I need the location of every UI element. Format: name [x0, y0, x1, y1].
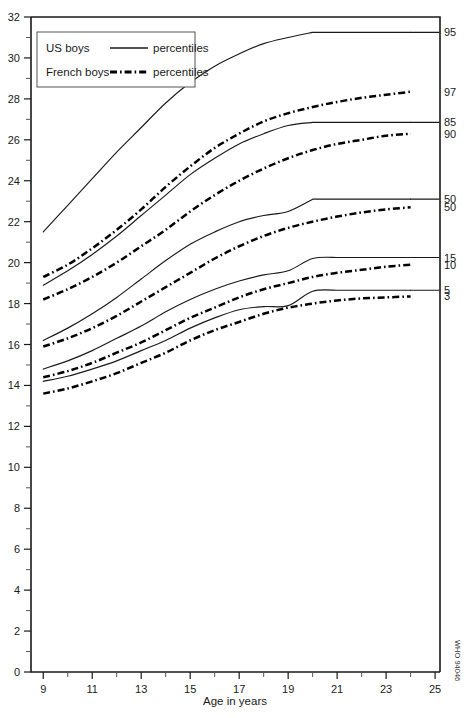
credit-note: WHO 94046	[453, 640, 462, 681]
y-tick-label: 12	[8, 420, 20, 432]
y-tick-label: 14	[8, 379, 20, 391]
curve-end-label-50: 50	[444, 201, 456, 213]
y-tick-label: 2	[14, 625, 20, 637]
y-tick-label: 26	[8, 134, 20, 146]
curve-end-label-95: 95	[444, 26, 456, 38]
x-tick-label: 25	[429, 683, 441, 695]
x-tick-label: 17	[233, 683, 245, 695]
x-tick-label: 15	[184, 683, 196, 695]
bmi-percentile-chart: 02468101214161820222426283032 9111315171…	[0, 0, 465, 718]
chart-background	[0, 0, 465, 718]
y-tick-label: 6	[14, 543, 20, 555]
curve-end-label-3: 3	[444, 290, 450, 302]
y-tick-label: 28	[8, 93, 20, 105]
legend-suffix-french-boys: percentiles	[153, 66, 209, 78]
x-tick-label: 21	[331, 683, 343, 695]
y-tick-label: 18	[8, 298, 20, 310]
legend-label-french-boys: French boys	[46, 66, 110, 78]
y-tick-label: 4	[14, 584, 20, 596]
y-tick-label: 0	[14, 666, 20, 678]
y-tick-label: 22	[8, 216, 20, 228]
y-tick-label: 16	[8, 339, 20, 351]
chart-legend: US boys percentiles French boys percenti…	[37, 32, 209, 87]
y-tick-label: 8	[14, 502, 20, 514]
legend-suffix-us-boys: percentiles	[153, 42, 209, 54]
y-tick-label: 32	[8, 11, 20, 23]
y-tick-label: 24	[8, 175, 20, 187]
x-tick-label: 23	[380, 683, 392, 695]
x-tick-label: 11	[87, 683, 98, 695]
curve-end-label-85: 85	[444, 116, 456, 128]
chart-root: 02468101214161820222426283032 9111315171…	[0, 0, 465, 718]
x-tick-label: 13	[135, 683, 147, 695]
legend-box	[37, 32, 195, 87]
y-tick-label: 30	[8, 52, 20, 64]
curve-end-label-97: 97	[444, 86, 456, 98]
x-tick-label: 9	[40, 683, 46, 695]
curve-end-label-10: 10	[444, 259, 456, 271]
y-tick-label: 10	[8, 461, 20, 473]
y-tick-label: 20	[8, 257, 20, 269]
curve-end-label-90: 90	[444, 128, 456, 140]
legend-label-us-boys: US boys	[46, 42, 90, 54]
x-axis-title: Age in years	[203, 695, 267, 707]
x-tick-label: 19	[282, 683, 294, 695]
